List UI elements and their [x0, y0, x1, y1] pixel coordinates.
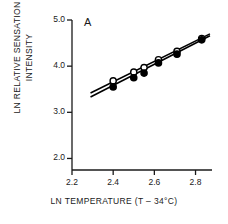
figure-panel: LN RELATIVE SENSATIONINTENSITY A LN TEMP… — [0, 0, 228, 224]
filled-circles-point-1 — [131, 75, 137, 81]
open-circles-point-0 — [110, 78, 116, 84]
filled-circles-point-4 — [174, 51, 180, 57]
filled-circles-point-3 — [155, 60, 161, 66]
filled-circles-point-5 — [199, 37, 205, 43]
plot-area — [0, 0, 228, 224]
upper-regression-line — [91, 34, 210, 93]
filled-circles-point-0 — [110, 84, 116, 90]
fit-lines-group — [91, 34, 210, 97]
lower-regression-line — [91, 36, 210, 97]
filled-circles-point-2 — [141, 70, 147, 76]
